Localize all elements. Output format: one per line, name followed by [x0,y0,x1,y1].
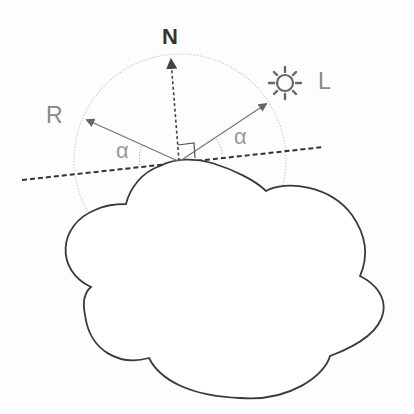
right-angle-marker [178,143,195,158]
angle-label-left: α [116,140,129,162]
angle-label-right: α [234,126,247,148]
sun-icon [269,67,301,99]
cloud-shape [66,160,384,399]
reflection-diagram: N R L α α [0,0,414,414]
normal-vector [171,60,179,161]
light-vector [180,104,266,161]
reflected-vector [87,120,178,161]
normal-label: N [162,26,178,48]
diagram-canvas [0,0,414,414]
angle-arc-right [216,139,222,155]
light-label: L [318,70,331,93]
angle-arc-left [139,145,142,165]
reflected-label: R [46,104,63,127]
